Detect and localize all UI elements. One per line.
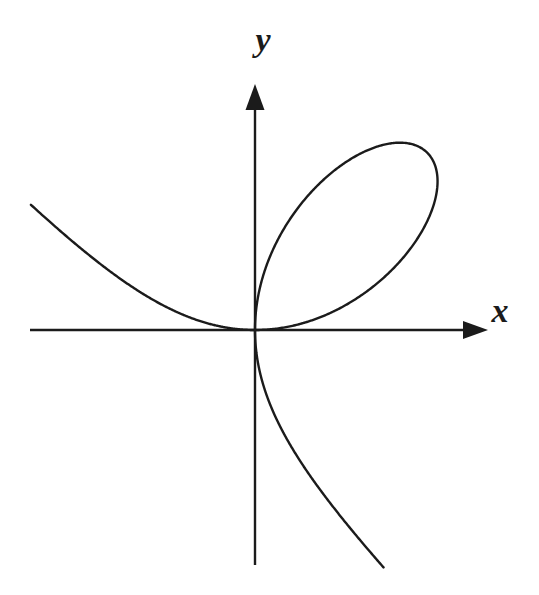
y-axis-arrowhead-icon	[246, 84, 265, 110]
curve-first-quadrant-loop	[255, 143, 438, 330]
y-axis-label: y	[251, 21, 271, 58]
folium-curve-figure: x y	[0, 0, 539, 595]
x-axis-label: x	[491, 292, 509, 329]
curve-plot-canvas: x y	[0, 0, 539, 595]
curve-second-quadrant-branch	[31, 205, 255, 330]
folium-curve	[31, 143, 438, 568]
x-axis-arrowhead-icon	[463, 321, 488, 339]
curve-fourth-quadrant-branch	[255, 330, 384, 567]
